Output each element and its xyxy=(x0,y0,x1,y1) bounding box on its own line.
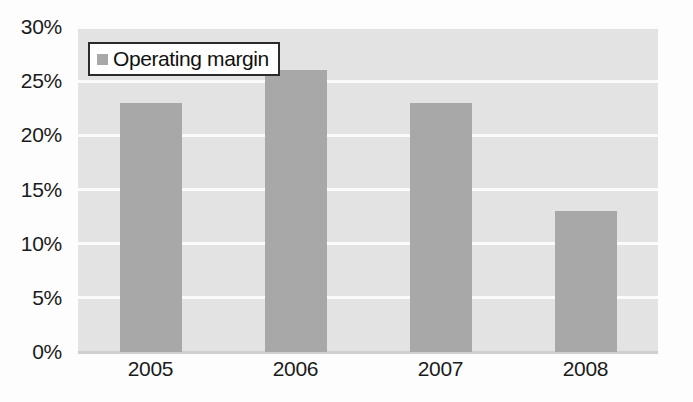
legend-label: Operating margin xyxy=(113,47,269,71)
y-axis-tick-label: 15% xyxy=(21,178,62,202)
chart-legend: Operating margin xyxy=(88,42,280,76)
y-axis-tick-label: 30% xyxy=(21,15,62,39)
bar-chart: 0%5%10%15%20%25%30% 2005200620072008 Ope… xyxy=(0,0,693,402)
y-axis-tick-label: 5% xyxy=(32,286,62,310)
y-axis-tick-label: 0% xyxy=(32,340,62,364)
bar xyxy=(120,103,182,352)
x-axis: 2005200620072008 xyxy=(78,357,658,397)
x-axis-tick-label: 2007 xyxy=(418,357,464,381)
y-axis-tick-label: 20% xyxy=(21,123,62,147)
x-axis-tick-label: 2006 xyxy=(273,357,319,381)
bar xyxy=(555,211,617,352)
bar xyxy=(410,103,472,352)
x-axis-tick-label: 2008 xyxy=(563,357,609,381)
bar xyxy=(265,70,327,352)
y-axis-tick-label: 10% xyxy=(21,232,62,256)
y-axis: 0%5%10%15%20%25%30% xyxy=(0,27,70,352)
x-axis-tick-label: 2005 xyxy=(128,357,174,381)
y-axis-tick-label: 25% xyxy=(21,69,62,93)
legend-color-swatch xyxy=(97,54,108,65)
